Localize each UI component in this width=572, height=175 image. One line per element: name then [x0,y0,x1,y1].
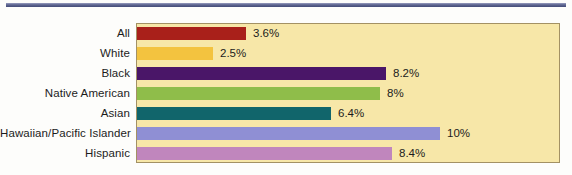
bar-row: White2.5% [0,43,572,63]
bar-group: 10% [137,123,470,143]
bar [137,127,440,140]
bar-rows-container: All3.6%White2.5%Black8.2%Native American… [0,23,572,163]
bar-row: Hawaiian/Pacific Islander10% [0,123,572,143]
bar [137,27,246,40]
bar [137,67,386,80]
bar-group: 8% [137,83,404,103]
bar-value-label: 2.5% [220,47,246,60]
category-label-hawaiian-pacific-islander: Hawaiian/Pacific Islander [0,127,130,140]
bar-row: Asian6.4% [0,103,572,123]
category-label-black: Black [0,67,130,80]
category-label-all: All [0,27,130,40]
bar-value-label: 6.4% [338,107,364,120]
chart-figure: All3.6%White2.5%Black8.2%Native American… [0,0,572,175]
bar-row: Black8.2% [0,63,572,83]
bar-group: 8.4% [137,143,425,163]
bar-row: Hispanic8.4% [0,143,572,163]
bar-row: All3.6% [0,23,572,43]
bar-group: 6.4% [137,103,364,123]
bar [137,107,331,120]
category-label-hispanic: Hispanic [0,147,130,160]
bar-value-label: 10% [447,127,470,140]
bar [137,47,213,60]
bar-row: Native American8% [0,83,572,103]
bar-group: 8.2% [137,63,419,83]
bar-value-label: 8.4% [399,147,425,160]
bar-value-label: 8% [387,87,404,100]
bar-group: 3.6% [137,23,279,43]
top-divider-rule [6,3,566,7]
category-label-asian: Asian [0,107,130,120]
category-label-native-american: Native American [0,87,130,100]
bar-value-label: 3.6% [253,27,279,40]
bar-group: 2.5% [137,43,246,63]
bar [137,147,392,160]
bar-value-label: 8.2% [393,67,419,80]
bar [137,87,380,100]
category-label-white: White [0,47,130,60]
